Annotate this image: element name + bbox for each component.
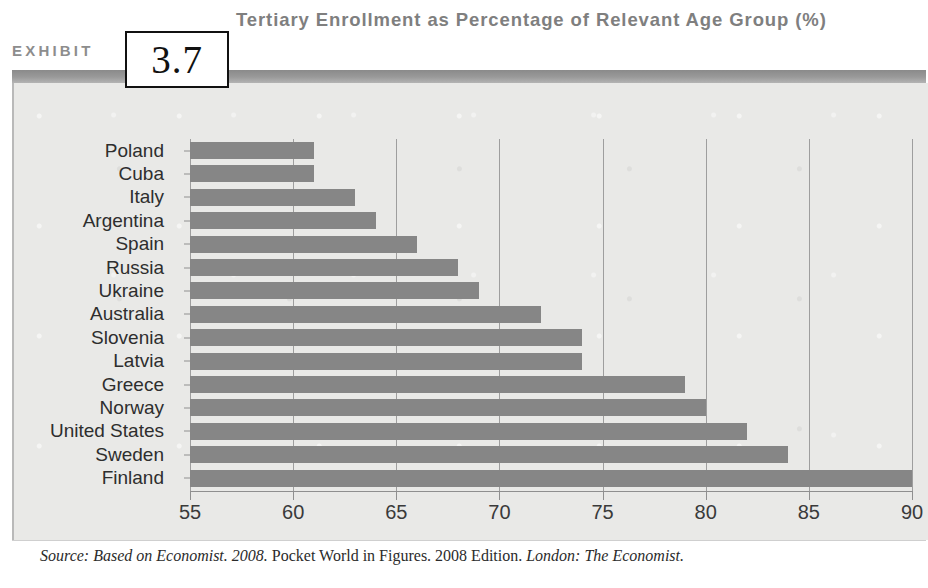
bar-row: Spain — [14, 233, 912, 256]
category-label: Finland — [102, 467, 170, 489]
exhibit-label: EXHIBIT — [12, 42, 94, 59]
x-tick-label: 85 — [798, 501, 820, 524]
category-label: Argentina — [83, 210, 170, 232]
bar-row: Poland — [14, 139, 912, 162]
bar-row: Norway — [14, 396, 912, 419]
x-tick-label: 80 — [695, 501, 717, 524]
x-axis-line — [190, 491, 913, 492]
bar — [190, 376, 685, 393]
x-tick-label: 90 — [901, 501, 923, 524]
x-tick — [499, 491, 500, 500]
category-label: United States — [50, 420, 170, 442]
source-divider — [12, 540, 926, 541]
bar — [190, 353, 582, 370]
bar — [190, 259, 458, 276]
x-tick-label: 75 — [591, 501, 613, 524]
source-citation: Source: Based on Economist. 2008. Pocket… — [40, 547, 684, 565]
bar-row: Italy — [14, 186, 912, 209]
bar — [190, 282, 479, 299]
bar-row: Cuba — [14, 162, 912, 185]
x-tick-label: 70 — [488, 501, 510, 524]
bar — [190, 329, 582, 346]
x-tick — [293, 491, 294, 500]
chart-panel: 5560657075808590 PolandCubaItalyArgentin… — [12, 83, 928, 540]
x-tick — [190, 491, 191, 500]
bar-row: Sweden — [14, 443, 912, 466]
category-label: Poland — [105, 140, 170, 162]
category-label: Sweden — [95, 444, 170, 466]
category-label: Ukraine — [99, 280, 170, 302]
bar — [190, 423, 747, 440]
exhibit-header: EXHIBIT 3.7 Tertiary Enrollment as Perce… — [0, 0, 926, 72]
source-suffix: London: The Economist. — [526, 547, 684, 564]
category-label: Slovenia — [91, 327, 170, 349]
category-label: Latvia — [113, 350, 170, 372]
source-middle: Pocket World in Figures. 2008 Edition. — [268, 547, 526, 564]
bar-row: Argentina — [14, 209, 912, 232]
bar — [190, 470, 912, 487]
category-label: Russia — [106, 257, 170, 279]
bar-row: Slovenia — [14, 326, 912, 349]
x-tick-label: 65 — [385, 501, 407, 524]
x-tick-label: 60 — [282, 501, 304, 524]
bar-row: United States — [14, 420, 912, 443]
bar — [190, 236, 417, 253]
bar-row: Finland — [14, 467, 912, 490]
bar-row: Russia — [14, 256, 912, 279]
category-label: Greece — [102, 374, 170, 396]
bar — [190, 165, 314, 182]
x-tick-label: 55 — [179, 501, 201, 524]
bar-row: Australia — [14, 303, 912, 326]
gridline — [912, 139, 913, 491]
bar — [190, 142, 314, 159]
bar-row: Greece — [14, 373, 912, 396]
bar-chart-plot: 5560657075808590 PolandCubaItalyArgentin… — [14, 83, 928, 540]
bar — [190, 189, 355, 206]
category-label: Spain — [115, 233, 170, 255]
x-tick — [809, 491, 810, 500]
bar-row: Ukraine — [14, 279, 912, 302]
category-label: Australia — [90, 303, 170, 325]
x-tick — [912, 491, 913, 500]
category-label: Italy — [129, 186, 170, 208]
x-tick — [396, 491, 397, 500]
bar-row: Latvia — [14, 350, 912, 373]
page-title: Tertiary Enrollment as Percentage of Rel… — [236, 5, 916, 34]
x-tick — [706, 491, 707, 500]
bar — [190, 446, 788, 463]
exhibit-number-box: 3.7 — [125, 31, 229, 88]
source-prefix: Source: Based on Economist. 2008. — [40, 547, 268, 564]
exhibit-number: 3.7 — [151, 40, 203, 79]
x-tick — [603, 491, 604, 500]
bar — [190, 212, 376, 229]
category-label: Cuba — [119, 163, 170, 185]
bar — [190, 399, 706, 416]
category-label: Norway — [100, 397, 170, 419]
bar — [190, 306, 541, 323]
